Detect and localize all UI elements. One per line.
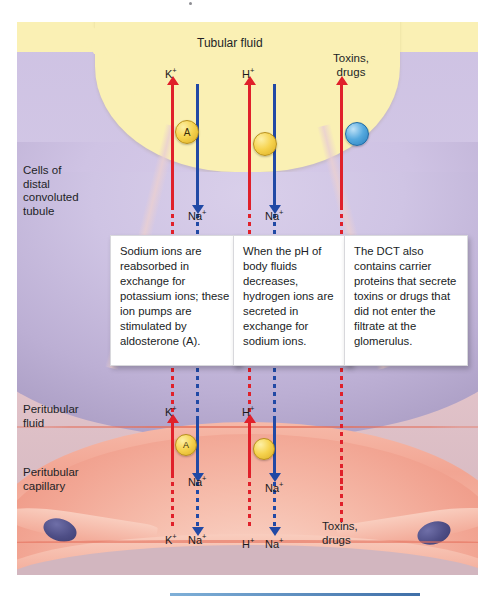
- dotted-na-lower: [196, 360, 199, 418]
- carrier-label-a-basal: A: [176, 435, 196, 455]
- figure-canvas: A A K+ H+ Toxins, drugs Na+ Na+ K+ Na+ H…: [0, 0, 495, 601]
- dotted-na-lower-2: [273, 360, 276, 418]
- label-peritubular-capillary: Peritubular capillary: [23, 466, 79, 493]
- dotted-h-capillary: [248, 474, 251, 530]
- label-toxins-apical: Toxins, drugs: [321, 52, 381, 79]
- arrow-na-reabsorption-apical: [196, 84, 199, 206]
- callout-aldosterone: Sodium ions are reabsorbed in exchange f…: [110, 235, 241, 366]
- label-hydrogen-basal: H+: [242, 404, 254, 418]
- callout-dct-carrier: The DCT also contains carrier proteins t…: [344, 235, 468, 366]
- label-peritubular-fluid: Peritubular fluid: [23, 403, 79, 430]
- carrier-label-a: A: [176, 121, 198, 143]
- label-sodium-capillary-2: Na+: [265, 536, 283, 550]
- page-speck: [189, 2, 192, 5]
- dotted-k-capillary: [171, 474, 174, 530]
- label-toxins-capillary: Toxins, drugs: [322, 520, 384, 547]
- bottom-rule: [170, 593, 420, 596]
- carrier-k-na-pump-basal[interactable]: A: [175, 434, 197, 456]
- arrow-k-secretion-apical: [171, 84, 174, 206]
- carrier-h-na-pump-basal[interactable]: [253, 438, 275, 460]
- label-tubular-fluid: Tubular fluid: [197, 36, 263, 50]
- carrier-toxin-protein-apical[interactable]: [345, 122, 369, 146]
- dotted-k-upper: [171, 206, 174, 236]
- label-sodium-basal-1: Na+: [188, 474, 206, 488]
- label-sodium-apical-2: Na+: [265, 208, 283, 222]
- dotted-toxins-capillary: [340, 470, 343, 526]
- label-hydrogen-apical: H+: [242, 66, 254, 80]
- dotted-toxins-upper: [340, 206, 343, 236]
- arrow-h-secretion-apical: [248, 84, 251, 206]
- carrier-k-na-pump-apical[interactable]: A: [175, 120, 199, 144]
- arrow-toxins-secretion-apical: [340, 84, 343, 206]
- label-sodium-basal-2: Na+: [265, 480, 283, 494]
- label-potassium-capillary: K+: [165, 532, 177, 546]
- label-sodium-apical-1: Na+: [188, 208, 206, 222]
- callout-ph: When the pH of body fluids decreases, hy…: [233, 235, 352, 366]
- label-sodium-capillary-1: Na+: [188, 532, 206, 546]
- dotted-h-upper: [248, 206, 251, 236]
- carrier-h-na-pump-apical[interactable]: [253, 132, 277, 156]
- arrow-h-secretion-basal: [248, 422, 251, 474]
- label-potassium-basal: K+: [165, 404, 177, 418]
- label-cells-of-dct: Cells of distal convoluted tubule: [23, 164, 79, 218]
- label-hydrogen-capillary: H+: [242, 536, 254, 550]
- arrow-k-secretion-basal: [171, 422, 174, 474]
- label-potassium-apical: K+: [165, 66, 177, 80]
- illustration-frame: A A K+ H+ Toxins, drugs Na+ Na+ K+ Na+ H…: [17, 22, 478, 575]
